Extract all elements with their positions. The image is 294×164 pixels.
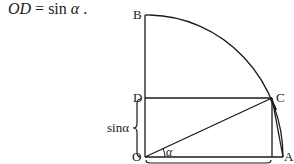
label-c: C [276,91,285,105]
label-angle-alpha: α [166,145,172,159]
angle-arc [163,149,165,158]
arc-ba [150,15,283,157]
brace-cos [146,160,271,163]
segment-oc [145,98,272,157]
label-o: O [132,150,141,164]
unit-circle-diagram [0,0,294,164]
label-b: B [133,8,142,22]
label-sin-alpha: sinα [107,121,129,135]
label-d: D [133,91,142,105]
label-a: A [284,150,293,164]
